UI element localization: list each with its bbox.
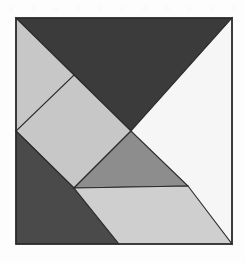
tangram-svg <box>0 0 245 263</box>
tangram-figure <box>0 0 245 263</box>
tangram-canvas: ● ● ● ● ● ● ● ● ● ● ● <box>0 0 245 263</box>
